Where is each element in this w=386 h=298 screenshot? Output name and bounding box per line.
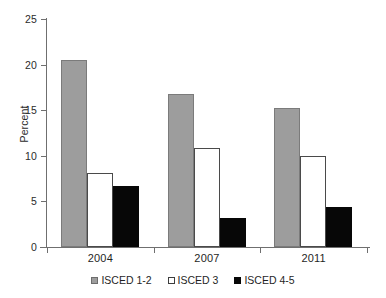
bar-2004-series-1 <box>87 173 113 247</box>
bar-chart: Percent 2520151050 200420072011 ISCED 1-… <box>0 0 386 298</box>
bar-2011-series-2 <box>326 207 352 247</box>
bar-2011-series-0 <box>274 108 300 247</box>
white-swatch-icon <box>168 277 175 284</box>
x-axis-label-2004: 2004 <box>55 252 145 265</box>
legend-label: ISCED 3 <box>178 274 219 286</box>
chart-legend: ISCED 1-2ISCED 3ISCED 4-5 <box>0 274 386 286</box>
bar-2004-series-2 <box>113 186 139 247</box>
x-axis-line <box>40 247 370 248</box>
x-tick-mark <box>154 248 155 253</box>
plot-area <box>47 19 367 247</box>
x-axis-label-2007: 2007 <box>162 252 252 265</box>
black-swatch-icon <box>234 277 241 284</box>
legend-item-1[interactable]: ISCED 3 <box>168 274 219 286</box>
bar-group <box>154 19 261 247</box>
bar-group <box>47 19 154 247</box>
legend-label: ISCED 1-2 <box>101 274 151 286</box>
x-axis-label-2011: 2011 <box>269 252 359 265</box>
legend-label: ISCED 4-5 <box>244 274 294 286</box>
y-tick-label: 5 <box>3 196 37 206</box>
x-tick-mark <box>367 248 368 253</box>
y-tick-label: 0 <box>3 242 37 252</box>
y-tick-label: 20 <box>3 60 37 70</box>
bar-group <box>260 19 367 247</box>
legend-item-2[interactable]: ISCED 4-5 <box>234 274 294 286</box>
legend-item-0[interactable]: ISCED 1-2 <box>91 274 151 286</box>
bar-2007-series-0 <box>168 94 194 247</box>
x-tick-mark <box>260 248 261 253</box>
x-tick-mark <box>47 248 48 253</box>
bar-2007-series-1 <box>194 148 220 247</box>
y-tick-label: 25 <box>3 14 37 24</box>
bar-2007-series-2 <box>220 218 246 247</box>
bar-2004-series-0 <box>61 60 87 247</box>
y-tick-label: 15 <box>3 105 37 115</box>
bar-2011-series-1 <box>300 156 326 247</box>
y-tick-label: 10 <box>3 151 37 161</box>
gray-swatch-icon <box>91 277 98 284</box>
